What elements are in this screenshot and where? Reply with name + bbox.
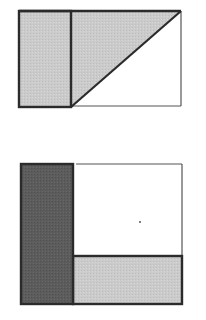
bottom-unshaded-region (73, 164, 182, 256)
bottom-dark-strip (21, 164, 73, 304)
bottom-light-strip (73, 256, 182, 304)
center-dot (139, 221, 141, 223)
figure-bottom (21, 164, 182, 304)
figure-top (19, 11, 181, 107)
top-shaded-strip (19, 11, 71, 107)
diagram-canvas (0, 0, 206, 320)
